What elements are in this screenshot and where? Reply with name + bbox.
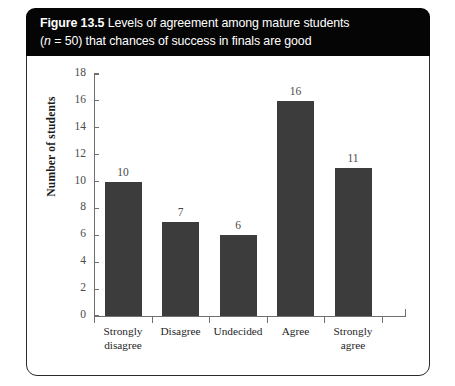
y-axis-tick <box>94 154 99 155</box>
x-axis-category-label: Stronglyagree <box>319 324 387 352</box>
bar-chart: Number of students 02468101214161810Stro… <box>26 48 430 376</box>
bar-value-label: 6 <box>213 219 263 231</box>
bar <box>220 235 257 316</box>
bar <box>277 101 314 316</box>
bar <box>335 168 372 316</box>
y-axis-tick-label: 8 <box>56 200 86 212</box>
y-axis-tick-label: 0 <box>56 308 86 320</box>
bar-value-label: 7 <box>156 206 206 218</box>
y-axis-tick-label: 14 <box>56 120 86 132</box>
figure-caption-line-1: Figure 13.5 Levels of agreement among ma… <box>40 15 418 33</box>
y-axis-tick-label: 18 <box>56 66 86 78</box>
bar-value-label: 11 <box>328 152 378 164</box>
x-axis-tick <box>94 317 95 323</box>
y-axis-tick-label: 16 <box>56 93 86 105</box>
y-axis-tick <box>94 181 99 182</box>
x-axis-label-line: disagree <box>89 338 157 352</box>
figure-caption-n-symbol: n <box>44 34 51 48</box>
x-axis-tick <box>152 317 153 323</box>
x-axis-label-line: Strongly <box>319 324 387 338</box>
bar-value-label: 16 <box>271 85 321 97</box>
y-axis-tick <box>94 235 99 236</box>
bar <box>105 182 142 316</box>
y-axis-tick-label: 10 <box>56 174 86 186</box>
x-axis-tick <box>209 317 210 323</box>
figure-caption-text-2: = 50) that chances of success in finals … <box>51 34 312 48</box>
y-axis-tick <box>94 289 99 290</box>
figure-caption-banner: Figure 13.5 Levels of agreement among ma… <box>26 8 430 56</box>
y-axis-tick-label: 4 <box>56 254 86 266</box>
y-axis-tick-label: 6 <box>56 227 86 239</box>
y-axis-tick <box>94 100 99 101</box>
figure-caption-text-1: Levels of agreement among mature student… <box>108 16 350 30</box>
x-axis-tick <box>267 317 268 323</box>
x-axis-tick <box>382 317 383 323</box>
y-axis-tick <box>94 127 99 128</box>
y-axis-tick <box>94 73 99 74</box>
bar-value-label: 10 <box>98 166 148 178</box>
y-axis-tick-label: 12 <box>56 147 86 159</box>
x-axis-label-line: agree <box>319 338 387 352</box>
figure-card: Figure 13.5 Levels of agreement among ma… <box>26 8 430 376</box>
y-axis-tick <box>94 262 99 263</box>
y-axis-tick-label: 2 <box>56 281 86 293</box>
figure-caption-line-2: (n = 50) that chances of success in fina… <box>40 33 418 51</box>
x-axis-tick <box>324 317 325 323</box>
figure-number: Figure 13.5 <box>40 16 104 30</box>
y-axis-tick <box>94 208 99 209</box>
x-axis-line <box>94 316 406 317</box>
bar <box>162 222 199 316</box>
